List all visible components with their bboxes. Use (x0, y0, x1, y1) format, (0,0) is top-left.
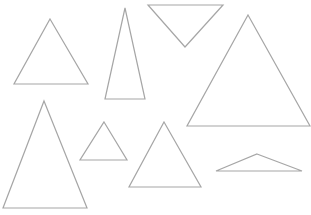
triangle-4 (187, 15, 310, 126)
triangle-3-inverted (148, 5, 223, 47)
triangle-2 (105, 8, 145, 99)
triangle-8-flat (216, 154, 302, 171)
triangles-diagram (0, 0, 311, 215)
triangle-6 (80, 122, 127, 160)
triangle-1 (14, 19, 88, 84)
diagram-canvas (0, 0, 311, 215)
triangle-7 (129, 122, 201, 187)
triangle-5 (3, 101, 87, 208)
